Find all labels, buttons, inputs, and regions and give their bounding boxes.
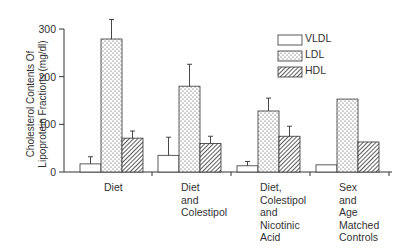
x-label-diet-colestipol: Diet and Colestipol xyxy=(181,181,227,219)
y-tick-300: 300 xyxy=(32,23,56,35)
bar-chart: Cholesterol Contents Of Lipoprotein Frac… xyxy=(0,0,394,248)
bar-vldl xyxy=(80,164,101,172)
y-axis-title-line-2: Lipoprotein Fractions (mg/dl) xyxy=(37,29,49,179)
bar-ldl xyxy=(337,99,358,172)
bar-vldl xyxy=(316,165,337,172)
legend-swatch-vldl xyxy=(278,35,302,45)
x-label-diet-colestipol-nicotinic: Diet, Colestipol and Nicotinic Acid xyxy=(260,181,306,244)
legend xyxy=(278,35,302,77)
x-label-controls: Sex and Age Matched Controls xyxy=(339,181,379,244)
legend-swatch-ldl xyxy=(278,51,302,61)
bar-ldl xyxy=(101,39,122,172)
legend-label-ldl: LDL xyxy=(305,48,324,60)
y-axis-title: Cholesterol Contents Of Lipoprotein Frac… xyxy=(25,29,49,179)
y-axis-title-line-1: Cholesterol Contents Of xyxy=(25,29,37,179)
legend-swatch-hdl xyxy=(278,67,302,77)
bar-hdl xyxy=(200,143,221,172)
bar-ldl xyxy=(258,111,279,172)
bar-vldl xyxy=(237,166,258,172)
legend-label-vldl: VLDL xyxy=(305,32,331,44)
bars xyxy=(80,19,379,172)
x-label-diet: Diet xyxy=(104,181,123,194)
y-tick-100: 100 xyxy=(32,118,56,130)
bar-hdl xyxy=(279,136,300,172)
y-tick-200: 200 xyxy=(32,71,56,83)
bar-ldl xyxy=(179,86,200,172)
bar-hdl xyxy=(122,138,143,172)
legend-label-hdl: HDL xyxy=(305,64,326,76)
bar-hdl xyxy=(358,142,379,172)
bar-vldl xyxy=(158,155,179,172)
y-tick-0: 0 xyxy=(32,166,56,178)
